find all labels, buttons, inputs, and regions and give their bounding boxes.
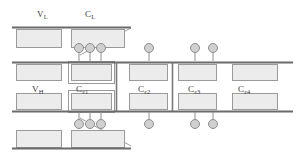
label-cell-2: Cε2	[138, 85, 150, 96]
block-lower-ce2-body	[130, 94, 168, 110]
block-lower-vh-body	[17, 94, 62, 110]
contact-upper-5-dot	[191, 44, 200, 53]
contact-lower-3	[97, 112, 106, 129]
contact-lower-4-dot	[145, 120, 154, 129]
contact-lower-2-dot	[86, 120, 95, 129]
contact-upper-6	[209, 44, 218, 62]
contact-upper-3-dot	[97, 44, 106, 53]
contact-lower-6-dot	[209, 120, 218, 129]
block-lower-ce1-body	[72, 94, 112, 110]
block-lower-ce4	[233, 94, 278, 110]
block-upper-ce3	[179, 65, 217, 81]
label-cell-1: Cε1	[76, 85, 88, 96]
contact-upper-1-dot	[75, 44, 84, 53]
label-cell-4: Cε4	[238, 85, 250, 96]
contact-lower-4	[145, 112, 154, 129]
block-upper-ce3-body	[179, 65, 217, 81]
label-v-high: VH	[32, 85, 43, 96]
block-lower-ce4-body	[233, 94, 278, 110]
block-lower-ce3	[179, 94, 217, 110]
block-upper-ce1-body	[72, 65, 112, 81]
schematic-canvas	[0, 0, 300, 158]
block-bottom-vl	[17, 131, 62, 148]
contact-lower-1-dot	[75, 120, 84, 129]
block-upper-vh	[17, 65, 62, 81]
block-bottom-cl	[72, 131, 125, 148]
block-upper-ce1	[69, 62, 115, 84]
contact-upper-5	[191, 44, 200, 62]
label-v-low: VL	[37, 10, 48, 21]
contact-upper-3	[97, 44, 106, 62]
contact-upper-1	[75, 44, 84, 62]
block-lower-ce2	[130, 94, 168, 110]
block-upper-ce2	[130, 65, 168, 81]
contact-lower-2	[86, 112, 95, 129]
contact-upper-2-dot	[86, 44, 95, 53]
contact-upper-2	[86, 44, 95, 62]
block-lower-ce3-body	[179, 94, 217, 110]
block-lower-vh	[17, 94, 62, 110]
block-top-vl-body	[17, 30, 62, 48]
block-upper-ce4	[233, 65, 278, 81]
label-cell-3: Cε3	[188, 85, 200, 96]
contact-lower-3-dot	[97, 120, 106, 129]
contact-upper-4-dot	[145, 44, 154, 53]
block-upper-ce4-body	[233, 65, 278, 81]
contact-lower-5-dot	[191, 120, 200, 129]
contact-lower-6	[209, 112, 218, 129]
contact-lower-1	[75, 112, 84, 129]
schematic-figure: VL CL VH Cε1 Cε2 Cε3 Cε4	[0, 0, 300, 158]
block-bottom-vl-body	[17, 131, 62, 148]
block-top-vl	[17, 30, 62, 48]
contact-upper-6-dot	[209, 44, 218, 53]
block-bottom-cl-body	[72, 131, 125, 148]
contact-upper-4	[145, 44, 154, 62]
label-c-low: CL	[85, 10, 95, 21]
contact-lower-5	[191, 112, 200, 129]
block-upper-ce2-body	[130, 65, 168, 81]
block-upper-vh-body	[17, 65, 62, 81]
